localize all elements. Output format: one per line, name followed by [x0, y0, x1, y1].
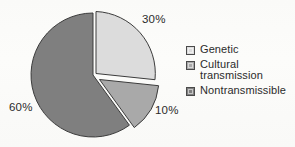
legend-swatch-icon-nontransmissible: [186, 87, 195, 96]
legend-item-nontransmissible[interactable]: Nontransmissible: [186, 85, 295, 97]
pie-chart-figure: 30% 10% 60%: [0, 0, 180, 147]
legend-label-genetic: Genetic: [200, 44, 239, 56]
legend-swatch-icon-cultural-transmission: [186, 61, 195, 70]
legend-label-cultural-transmission: Culturaltransmission: [200, 59, 263, 82]
legend-label-nontransmissible: Nontransmissible: [200, 85, 286, 97]
slice-value-label-nontransmissible: 60%: [9, 101, 33, 113]
legend-item-cultural-transmission[interactable]: Culturaltransmission: [186, 59, 295, 82]
slice-value-label-genetic: 30%: [142, 13, 166, 25]
legend-label-cultural-line2: transmission: [200, 70, 263, 82]
slice-value-label-cultural-transmission: 10%: [155, 104, 179, 116]
legend-label-cultural-line1: Cultural: [200, 58, 239, 70]
legend-swatch-icon-genetic: [186, 46, 195, 55]
pie-chart-screenshot: 30% 10% 60% Genetic Culturaltransmission…: [0, 0, 295, 147]
chart-legend: Genetic Culturaltransmission Nontransmis…: [186, 44, 295, 99]
legend-item-genetic[interactable]: Genetic: [186, 44, 295, 56]
